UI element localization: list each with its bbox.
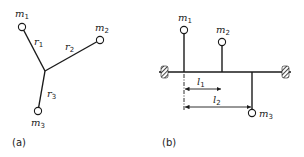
label-b-m3: m3 [259,108,273,121]
mass-m1-circle [18,23,25,30]
label-r1: r1 [34,36,43,49]
arm-r1 [22,27,45,71]
mass-m3-circle [34,107,41,114]
label-a-m1: m1 [15,8,29,21]
diagram-canvas: m1 m2 m3 r1 r2 r3 (a) [0,0,304,157]
label-a-m2: m2 [95,22,109,35]
label-l2: l2 [213,94,221,107]
figure-a-rotor-plane: m1 m2 m3 r1 r2 r3 (a) [12,8,109,148]
mass-b-m2-circle [218,38,225,45]
label-a-m3: m3 [31,117,45,130]
label-b-m1: m1 [178,12,192,25]
caption-b: (b) [162,137,176,148]
mass-b-m3-circle [248,109,255,116]
arm-r2 [45,40,100,71]
left-bearing-icon [161,66,168,78]
mass-m2-circle [96,36,103,43]
label-r2: r2 [65,41,74,54]
label-l1: l1 [197,76,205,89]
figure-b-shaft-elevation: m1 m2 m3 l1 l2 (b) [159,12,291,148]
arm-r3 [38,71,45,111]
caption-a: (a) [12,137,26,148]
label-r3: r3 [47,88,56,101]
label-b-m2: m2 [216,24,230,37]
mass-b-m1-circle [180,26,187,33]
right-bearing-icon [282,66,289,78]
